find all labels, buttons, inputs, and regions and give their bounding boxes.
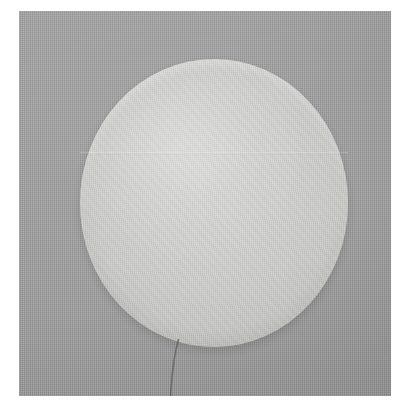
disc-highlight (80, 59, 348, 347)
disc-horizontal-seam (80, 152, 348, 155)
page-margin-right (391, 0, 411, 416)
photo-page (0, 0, 411, 416)
disc-surface-texture (80, 59, 348, 347)
photograph (19, 11, 391, 396)
page-margin-bottom (0, 396, 411, 416)
page-margin-top (0, 0, 411, 11)
cotton-pad-disc (80, 59, 348, 347)
page-margin-left (0, 0, 19, 416)
